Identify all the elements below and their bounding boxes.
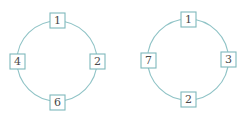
node-label: 3 xyxy=(225,53,232,66)
left-node-top: 1 xyxy=(50,13,65,28)
node-label: 1 xyxy=(54,14,61,27)
left-ring-diagram: 1 2 6 4 xyxy=(10,13,105,110)
left-node-left: 4 xyxy=(10,54,25,69)
right-node-left: 7 xyxy=(141,53,156,68)
right-ring-circle xyxy=(148,19,229,100)
node-label: 7 xyxy=(145,54,152,67)
right-node-top: 1 xyxy=(181,12,196,27)
right-node-right: 3 xyxy=(221,52,236,67)
right-node-bottom: 2 xyxy=(181,92,196,107)
right-ring-diagram: 1 3 2 7 xyxy=(141,12,236,107)
left-node-right: 2 xyxy=(90,54,105,69)
node-label: 2 xyxy=(185,93,192,106)
node-label: 6 xyxy=(54,96,61,109)
node-label: 1 xyxy=(185,13,192,26)
diagram-canvas: 1 2 6 4 1 3 2 7 xyxy=(0,0,246,123)
left-node-bottom: 6 xyxy=(50,95,65,110)
node-label: 2 xyxy=(94,55,101,68)
left-ring-circle xyxy=(17,21,97,101)
node-label: 4 xyxy=(14,55,21,68)
